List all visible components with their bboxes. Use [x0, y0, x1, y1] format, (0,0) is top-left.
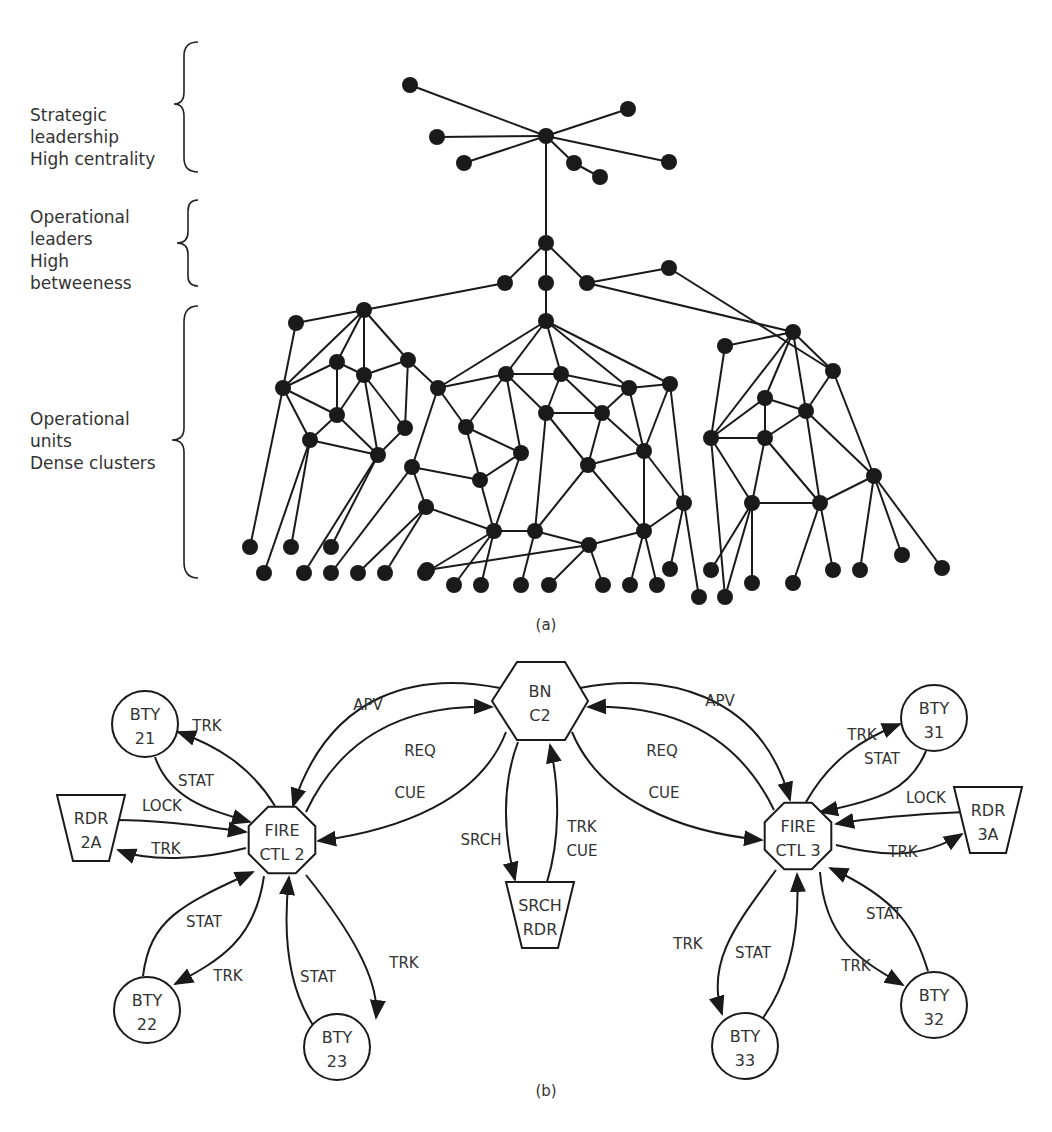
node-label: 33	[735, 1051, 755, 1070]
brace-operational-units	[172, 306, 198, 578]
edge-line	[287, 877, 313, 1025]
network-edge	[405, 360, 408, 428]
network-node	[419, 562, 435, 578]
network-node	[785, 324, 801, 340]
network-edge	[425, 531, 494, 573]
caption-b: (b)	[535, 1082, 556, 1100]
network-edge	[820, 503, 833, 570]
network-edge	[535, 413, 546, 531]
network-node	[541, 577, 557, 593]
network-edge	[588, 413, 602, 465]
network-edge	[546, 321, 561, 374]
network-edge	[644, 384, 670, 451]
edge-rdr-3a-to-fire-ctl-3: LOCK	[836, 789, 965, 824]
edge-label: TRK	[212, 967, 244, 985]
edge-fire-ctl-3-to-bty-33: TRK	[672, 870, 776, 1014]
network-edge	[670, 503, 684, 569]
node-bty-21: BTY21	[112, 691, 178, 757]
network-node	[329, 407, 345, 423]
node-bty-31: BTY31	[901, 685, 967, 751]
network-edge	[602, 413, 644, 451]
edge-line	[588, 707, 774, 810]
network-node	[825, 363, 841, 379]
network-edge	[669, 268, 833, 371]
network-edge	[874, 476, 902, 555]
edge-label: LOCK	[142, 797, 183, 815]
edge-fire-ctl-2-to-bty-23: TRK	[306, 875, 420, 1018]
node-label: RDR	[74, 809, 109, 828]
network-edge	[588, 465, 644, 531]
edge-line	[506, 742, 518, 880]
node-label: 31	[924, 723, 944, 742]
network-node	[703, 562, 719, 578]
network-edge	[546, 109, 628, 136]
network-node	[323, 539, 339, 555]
node-label: 21	[135, 729, 155, 748]
network-node	[934, 560, 950, 576]
network-node	[744, 495, 760, 511]
network-edge	[412, 388, 438, 467]
network-node	[446, 577, 462, 593]
network-edge	[438, 321, 546, 388]
network-node	[662, 376, 678, 392]
network-edge	[494, 453, 521, 531]
edge-label: STAT	[866, 905, 903, 923]
network-edge	[684, 503, 699, 597]
network-edge	[587, 283, 793, 332]
network-edge	[250, 388, 283, 547]
brace-strategic	[174, 42, 198, 172]
network-node	[527, 523, 543, 539]
edge-label: STAT	[300, 968, 337, 986]
network-node	[430, 380, 446, 396]
edge-label: APV	[353, 696, 383, 714]
network-edge	[310, 440, 378, 455]
edge-bty-23-to-fire-ctl-2: STAT	[287, 877, 337, 1025]
network-node	[538, 313, 554, 329]
network-edge	[506, 321, 546, 374]
network-node	[785, 575, 801, 591]
edge-label: TRK	[672, 935, 704, 953]
network-node	[377, 565, 393, 581]
node-label: 3A	[977, 825, 998, 844]
network-edge	[331, 455, 378, 547]
network-node	[429, 129, 445, 145]
edge-label: REQ	[404, 742, 436, 760]
network-node	[275, 380, 291, 396]
network-node	[283, 539, 299, 555]
network-node	[622, 577, 638, 593]
network-node	[242, 539, 258, 555]
node-label: C2	[529, 706, 550, 725]
network-node	[757, 430, 773, 446]
caption-a: (a)	[536, 616, 557, 634]
network-node	[592, 169, 608, 185]
network-edge	[364, 310, 408, 360]
node-label: BTY	[919, 986, 950, 1005]
network-edge	[535, 531, 589, 545]
network-node	[404, 459, 420, 475]
network-node	[486, 523, 502, 539]
network-node	[497, 275, 513, 291]
edge-line	[178, 732, 275, 806]
edge-label: TRK	[887, 843, 919, 861]
network-node	[456, 155, 472, 171]
edge-label: TRK	[840, 957, 872, 975]
network-edge	[535, 465, 588, 531]
network-edge	[331, 467, 412, 573]
network-node	[661, 260, 677, 276]
network-edge	[546, 243, 587, 283]
network-node	[513, 577, 529, 593]
network-edge	[426, 507, 494, 531]
network-node	[323, 565, 339, 581]
node-bty-32: BTY32	[901, 972, 967, 1038]
node-fire-ctl-3: FIRECTL 3	[765, 803, 832, 870]
edge-label: STAT	[186, 913, 223, 931]
edge-label: TRK	[191, 717, 223, 735]
network-node	[581, 537, 597, 553]
network-node	[661, 154, 677, 170]
network-node	[717, 589, 733, 605]
edge-label: STAT	[178, 772, 215, 790]
node-label: RDR	[971, 801, 1006, 820]
network-node	[296, 565, 312, 581]
edge-srch-rdr-to-bn-c2: TRKCUE	[547, 745, 598, 882]
network-node	[744, 575, 760, 591]
